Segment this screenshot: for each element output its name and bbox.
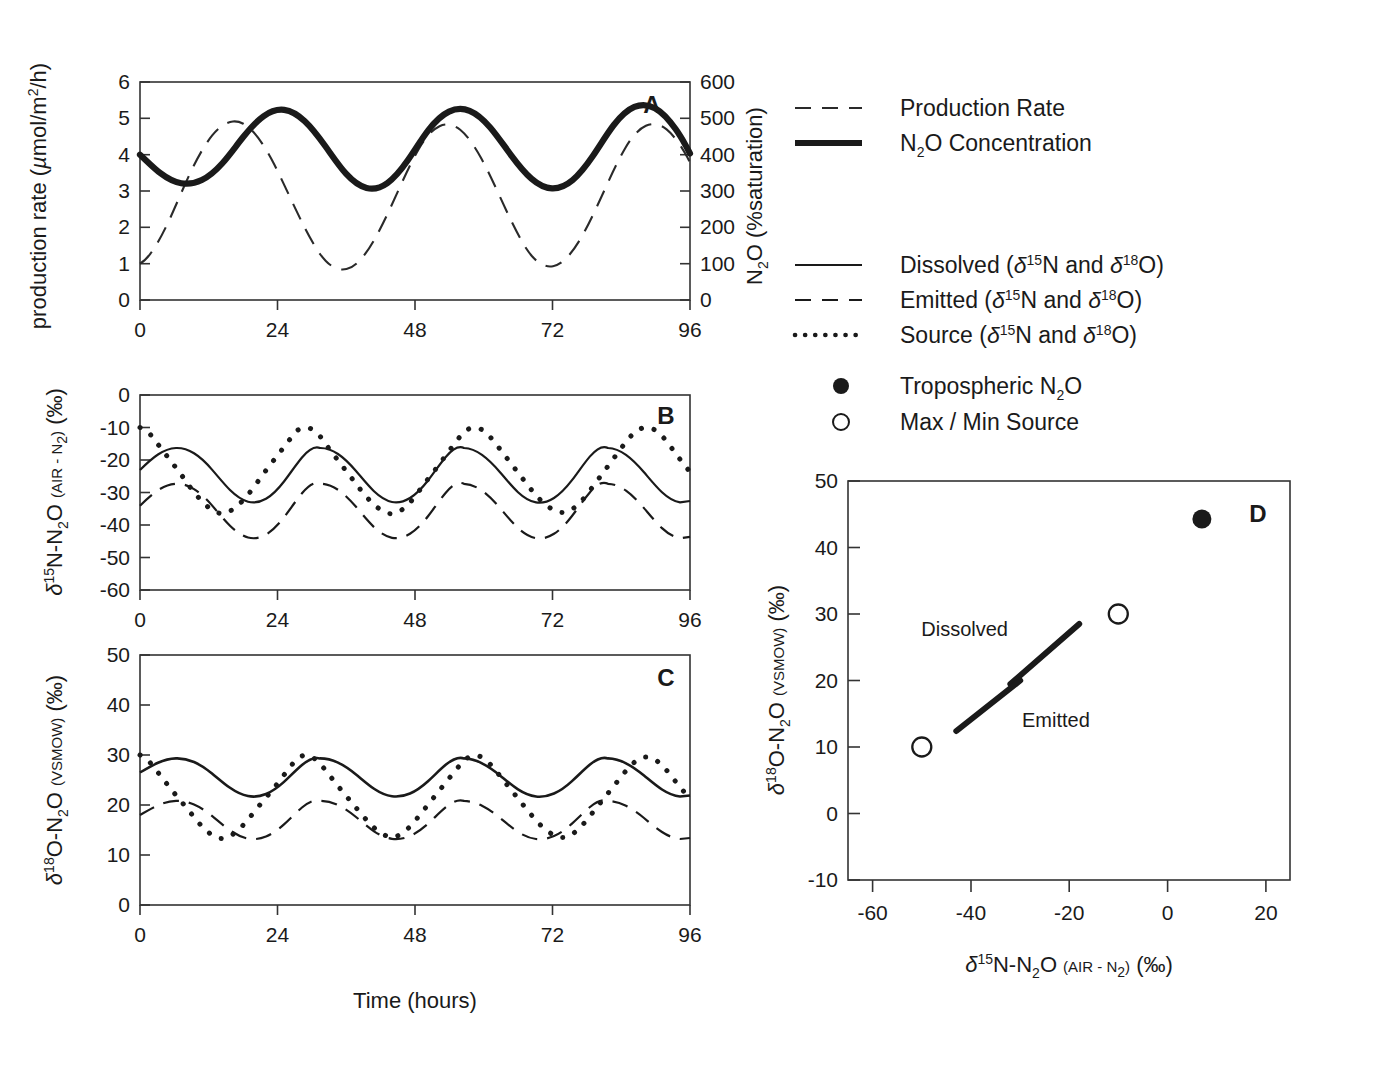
panel-b-label: B	[657, 402, 674, 429]
figure-root: 0 1 2 3 4 5 6 0 100 200 300 400 500 600	[0, 0, 1384, 1074]
tick-label: 24	[266, 923, 290, 946]
tick-label: 300	[700, 179, 735, 202]
tick-label: 48	[403, 608, 426, 631]
tick-label: 0	[700, 288, 712, 311]
filled-circle-icon	[833, 378, 849, 394]
panel-d-annotation-emitted: Emitted	[1022, 709, 1090, 731]
tick-label: -20	[1054, 901, 1084, 924]
tick-label: 20	[815, 669, 838, 692]
tick-label: 40	[107, 693, 130, 716]
tick-label: 50	[107, 643, 130, 666]
tick-label: 20	[1254, 901, 1277, 924]
tick-label: 72	[541, 608, 564, 631]
tick-label: 600	[700, 70, 735, 93]
panel-b-y-ticklabels: 0 -10 -20 -30 -40 -50 -60	[100, 383, 130, 601]
tick-label: 20	[107, 793, 130, 816]
tick-label: 0	[826, 802, 838, 825]
tick-label: 48	[403, 923, 426, 946]
time-axis-title: Time (hours)	[353, 988, 477, 1013]
tick-label: -60	[857, 901, 887, 924]
tick-label: 96	[678, 923, 701, 946]
background	[0, 0, 1384, 1074]
tick-label: 40	[815, 536, 838, 559]
tick-label: 10	[815, 735, 838, 758]
legend-label: Production Rate	[900, 95, 1065, 121]
tick-label: 500	[700, 106, 735, 129]
tick-label: 10	[107, 843, 130, 866]
tick-label: 24	[266, 608, 290, 631]
panel-c-label: C	[657, 664, 674, 691]
tick-label: 1	[118, 252, 130, 275]
tick-label: 50	[815, 469, 838, 492]
tick-label: 5	[118, 106, 130, 129]
panel-a-right-ticklabels: 0 100 200 300 400 500 600	[700, 70, 735, 311]
tick-label: 30	[815, 602, 838, 625]
panel-a-ylabel-right: N2O (%saturation)	[742, 107, 771, 285]
panel-d-point-min-source	[912, 738, 931, 757]
tick-label: 24	[266, 318, 290, 341]
panel-d-label: D	[1249, 500, 1266, 527]
tick-label: 6	[118, 70, 130, 93]
tick-label: 0	[134, 923, 146, 946]
panel-d-point-tropospheric-n2o	[1192, 510, 1211, 529]
tick-label: 100	[700, 252, 735, 275]
panel-a-left-ticklabels: 0 1 2 3 4 5 6	[118, 70, 130, 311]
tick-label: 0	[1162, 901, 1174, 924]
tick-label: 0	[118, 893, 130, 916]
tick-label: -20	[100, 448, 130, 471]
tick-label: -30	[100, 481, 130, 504]
tick-label: 30	[107, 743, 130, 766]
tick-label: 200	[700, 215, 735, 238]
tick-label: 0	[134, 608, 146, 631]
tick-label: 4	[118, 143, 130, 166]
tick-label: 96	[678, 608, 701, 631]
tick-label: 2	[118, 215, 130, 238]
tick-label: 400	[700, 143, 735, 166]
tick-label: -40	[100, 513, 130, 536]
tick-label: 72	[541, 318, 564, 341]
svg-text:N2O (%saturation): N2O (%saturation)	[742, 107, 771, 285]
tick-label: 0	[118, 288, 130, 311]
legend-label: Max / Min Source	[900, 409, 1079, 435]
tick-label: -40	[956, 901, 986, 924]
tick-label: 96	[678, 318, 701, 341]
panel-a-ylabel-left: production rate (µmol/m2/h)	[25, 63, 51, 329]
tick-label: 3	[118, 179, 130, 202]
legend-label: N2O Concentration	[900, 130, 1092, 160]
tick-label: -50	[100, 546, 130, 569]
tick-label: 48	[403, 318, 426, 341]
legend-label: Tropospheric N2O	[900, 373, 1082, 403]
tick-label: 0	[118, 383, 130, 406]
svg-text:production rate (µmol/m2/h): production rate (µmol/m2/h)	[25, 63, 51, 329]
tick-label: -60	[100, 578, 130, 601]
figure-canvas: 0 1 2 3 4 5 6 0 100 200 300 400 500 600	[0, 0, 1384, 1074]
panel-d-point-max-source	[1109, 605, 1128, 624]
panel-d-annotation-dissolved: Dissolved	[921, 618, 1008, 640]
tick-label: -10	[100, 416, 130, 439]
tick-label: -10	[808, 868, 838, 891]
tick-label: 0	[134, 318, 146, 341]
tick-label: 72	[541, 923, 564, 946]
